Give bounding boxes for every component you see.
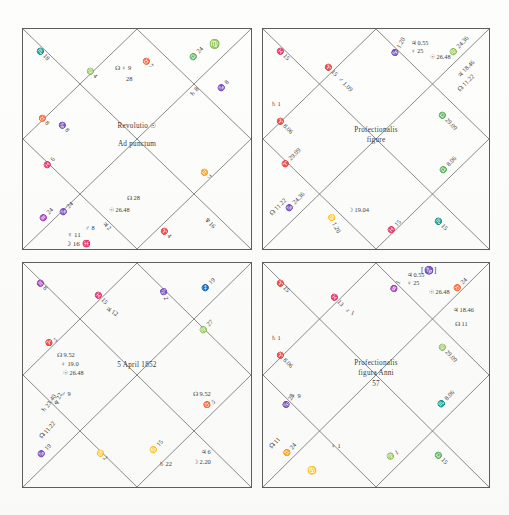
ann-bottom-moon: ☽ 2.20 (193, 459, 211, 466)
center-line-2: figure (263, 135, 489, 145)
ann-venus: ♀ 25 (411, 47, 428, 55)
astrological-charts-grid: Revolutio ☉ Ad punctum ♍ ♏ 18 ♍ 4 ♉ 7 ☊ … (0, 0, 509, 515)
ann-top-right-5: ☊ 11 (455, 321, 468, 328)
ann-right-node: ☊ 9.52 (193, 391, 211, 398)
ann-bottom-center-left: ♂ 8 (85, 225, 95, 232)
chart-top-right: Profectionalis figure ♓ 15 ♈ 15 ♂ 1.09 ♑… (262, 28, 490, 250)
chart-bottom-right-center-label: Profectionalis figura Anni 57 (263, 358, 489, 389)
ann-bottom-center-moon: ☽ 19.04 (348, 207, 369, 214)
ann-left-sun: ☉ 26.48 (63, 370, 83, 377)
ann-bottom-left-moon: ☽ 16 ♓ (65, 241, 91, 248)
ann-venus: ♀ 25 (407, 279, 424, 287)
ann-mercury: ♃ 0.55 (411, 39, 428, 47)
ann-bottom-center: ♀ 1 (331, 443, 341, 450)
ann-left-saturn: ♄ 1 (271, 101, 281, 108)
chart-top-left-corner-sign: ♍ (209, 40, 220, 49)
ann-left-node: ☊ 9.52 (57, 352, 75, 359)
ann-bottom-saturn: ♄ 22 (159, 461, 172, 468)
chart-top-left: Revolutio ☉ Ad punctum ♍ ♏ 18 ♍ 4 ♉ 7 ☊ … (22, 28, 252, 250)
chart-bottom-right: Profectionalis figura Anni 57 [♑] ♈ 15 ♓… (262, 262, 490, 488)
chart-bottom-left-center-label: 5 April 1852 (23, 360, 251, 370)
ann-top-right-cluster: ♃ 0.55 ♀ 25 (407, 271, 424, 287)
ann-left-venus: ♀ 19.0 (61, 361, 79, 368)
ann-bottom-left-venus: ♀ 11 (67, 232, 81, 239)
center-line-2: Ad punctum (23, 139, 251, 149)
ann-top-right-sun: ☉ 26.48 (430, 54, 450, 61)
ann-bottom-left-3: ♋ (307, 467, 317, 475)
ann-top-center: ☊ ♀ 9 (115, 65, 131, 72)
center-line-2: figura Anni (263, 368, 489, 378)
ann-top-center-below: 28 (126, 76, 132, 83)
ann-top-right-1: ♃ 0.55 ♀ 25 (411, 39, 428, 55)
center-line-1: 5 April 1852 (23, 360, 251, 370)
ann-left-saturn: ♄ 1 (271, 335, 281, 342)
chart-bottom-left: 5 April 1852 ♒ 8 ♓ 15 ♃ 12 ♑ 2 ♐ 19 ♍ 27… (22, 262, 252, 488)
chart-bottom-left-lines (23, 263, 251, 487)
ann-bottom-center-right: ☊ 28 (127, 195, 140, 202)
ann-top-right-4: ♃ 18.46 (453, 307, 474, 314)
ann-top-right-sun: ☉ 26.48 (429, 289, 449, 296)
ann-bottom-right-jupiter: ♃ 6 (201, 449, 211, 456)
ann-mercury: ♃ 0.55 (407, 271, 424, 279)
ann-bottom-center-sun: ☉ 26.48 (109, 207, 129, 214)
center-line-3: 57 (263, 379, 489, 389)
